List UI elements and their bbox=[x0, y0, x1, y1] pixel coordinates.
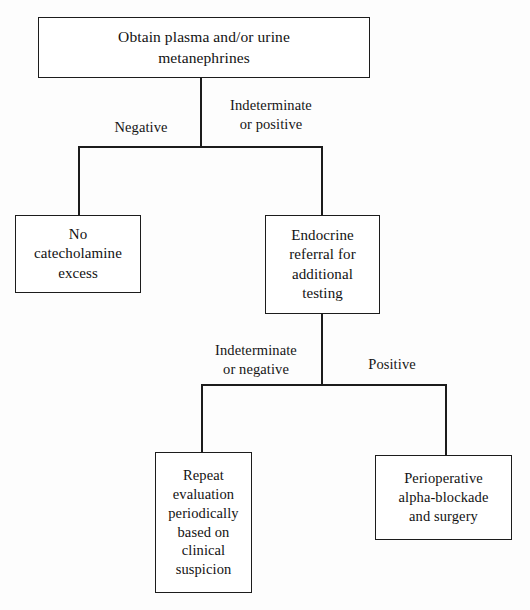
node-perioperative-alpha-blockade: Perioperative alpha-blockade and surgery bbox=[375, 455, 512, 540]
node-obtain-label: Obtain plasma and/or urine metanephrines bbox=[39, 27, 369, 67]
connector-obtain-stem bbox=[200, 78, 202, 148]
edge-label-indeterminate-or-negative: Indeterminate or negative bbox=[196, 341, 316, 378]
connector-branch2-to-repeat bbox=[201, 384, 203, 453]
connector-branch2-horizontal bbox=[201, 384, 447, 386]
edge-label-negative: Negative bbox=[98, 118, 184, 137]
connector-endocrine-stem bbox=[321, 314, 323, 386]
connector-branch1-horizontal bbox=[78, 146, 323, 148]
connector-branch1-to-no-catecholamine bbox=[78, 146, 80, 216]
flowchart-canvas: Obtain plasma and/or urine metanephrines… bbox=[0, 0, 530, 610]
node-no-catecholamine-excess: No catecholamine excess bbox=[15, 215, 141, 293]
edge-label-positive: Positive bbox=[352, 355, 432, 374]
node-endocrine-referral: Endocrine referral for additional testin… bbox=[265, 215, 380, 314]
edge-label-indeterminate-or-positive: Indeterminate or positive bbox=[210, 96, 332, 133]
node-repeat-evaluation-label: Repeat evaluation periodically based on … bbox=[156, 466, 251, 579]
connector-branch2-to-perioperative bbox=[445, 384, 447, 456]
node-obtain-metanephrines: Obtain plasma and/or urine metanephrines bbox=[38, 17, 370, 78]
node-no-catecholamine-label: No catecholamine excess bbox=[16, 225, 140, 284]
node-endocrine-referral-label: Endocrine referral for additional testin… bbox=[266, 226, 379, 304]
node-perioperative-label: Perioperative alpha-blockade and surgery bbox=[376, 469, 511, 526]
node-repeat-evaluation: Repeat evaluation periodically based on … bbox=[155, 452, 252, 593]
connector-branch1-to-endocrine bbox=[321, 146, 323, 216]
